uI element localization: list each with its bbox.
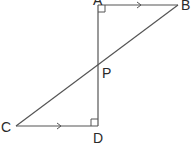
label-a: A <box>93 0 103 8</box>
label-b: B <box>181 0 190 13</box>
segment-bc <box>16 5 178 126</box>
right-angle-d-icon <box>91 119 98 126</box>
label-d: D <box>93 130 103 146</box>
geometry-diagram: A B C D P <box>0 0 196 148</box>
label-p: P <box>102 65 111 81</box>
label-c: C <box>1 119 11 135</box>
